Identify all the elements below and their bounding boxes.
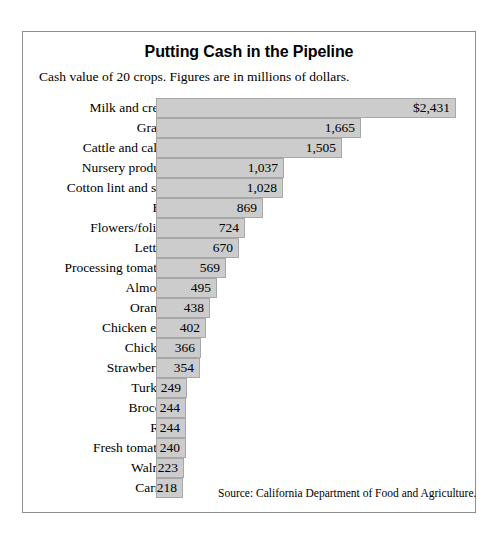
bar-wrapper: 1,665 (156, 118, 361, 138)
bar-value-label: 244 (146, 418, 186, 438)
bar-chart-plot-area: Milk and cream$2,431Grapes1,665Cattle an… (23, 98, 477, 498)
bar-row: Rice244 (23, 418, 477, 438)
bar-value-label: 240 (146, 438, 186, 458)
bar-wrapper: 354 (156, 358, 200, 378)
bar-value-label: 366 (156, 338, 201, 358)
bar-value-label: 249 (147, 378, 187, 398)
bar-row: Nursery products1,037 (23, 158, 477, 178)
bar-row: Chicken eggs402 (23, 318, 477, 338)
bar-wrapper: 366 (156, 338, 201, 358)
source-note: Source: California Department of Food an… (218, 487, 476, 499)
bar-wrapper: 1,505 (156, 138, 342, 158)
bar-value-label: 354 (156, 358, 200, 378)
bar-value-label: $2,431 (156, 98, 456, 118)
bar-value-label: 670 (156, 238, 239, 258)
bar-row: Hay869 (23, 198, 477, 218)
bar-value-label: 438 (156, 298, 210, 318)
bar-value-label: 402 (156, 318, 206, 338)
bar-row: Oranges438 (23, 298, 477, 318)
bar-wrapper: 218 (156, 478, 183, 498)
bar-value-label: 495 (156, 278, 217, 298)
bar-wrapper: 869 (156, 198, 263, 218)
bar-value-label: 1,665 (156, 118, 361, 138)
bar-wrapper: 438 (156, 298, 210, 318)
bar-value-label: 223 (144, 458, 184, 478)
bar-wrapper: 670 (156, 238, 239, 258)
bar-row: Almonds495 (23, 278, 477, 298)
bar-row: Turkeys249 (23, 378, 477, 398)
chart-frame: Putting Cash in the Pipeline Cash value … (22, 31, 476, 513)
bar-wrapper: 1,037 (156, 158, 284, 178)
bar-row: Lettuce670 (23, 238, 477, 258)
bar-wrapper: 223 (156, 458, 184, 478)
chart-title: Putting Cash in the Pipeline (23, 43, 475, 61)
bar-row: Processing tomatoes569 (23, 258, 477, 278)
bar-wrapper: 244 (156, 418, 186, 438)
bar-row: Cotton lint and seed1,028 (23, 178, 477, 198)
bar-row: Broccoli244 (23, 398, 477, 418)
bar-value-label: 218 (143, 478, 183, 498)
bar-value-label: 869 (156, 198, 263, 218)
bar-wrapper: $2,431 (156, 98, 456, 118)
bar-value-label: 1,028 (156, 178, 283, 198)
bar-value-label: 1,037 (156, 158, 284, 178)
bar-value-label: 724 (156, 218, 245, 238)
bar-row: Milk and cream$2,431 (23, 98, 477, 118)
bar-row: Grapes1,665 (23, 118, 477, 138)
bar-wrapper: 244 (156, 398, 186, 418)
bar-wrapper: 240 (156, 438, 186, 458)
bar-wrapper: 1,028 (156, 178, 283, 198)
bar-value-label: 569 (156, 258, 226, 278)
bar-row: Walnuts223 (23, 458, 477, 478)
bar-row: Chickens366 (23, 338, 477, 358)
chart-subtitle: Cash value of 20 crops. Figures are in m… (39, 69, 349, 85)
bar-row: Strawberries354 (23, 358, 477, 378)
bar-row: Flowers/foliage724 (23, 218, 477, 238)
bar-wrapper: 569 (156, 258, 226, 278)
bar-value-label: 244 (146, 398, 186, 418)
bar-wrapper: 724 (156, 218, 245, 238)
bar-row: Fresh tomatoes240 (23, 438, 477, 458)
bar-wrapper: 402 (156, 318, 206, 338)
bar-wrapper: 495 (156, 278, 217, 298)
bar-row: Cattle and calves1,505 (23, 138, 477, 158)
bar-wrapper: 249 (156, 378, 187, 398)
bar-value-label: 1,505 (156, 138, 342, 158)
